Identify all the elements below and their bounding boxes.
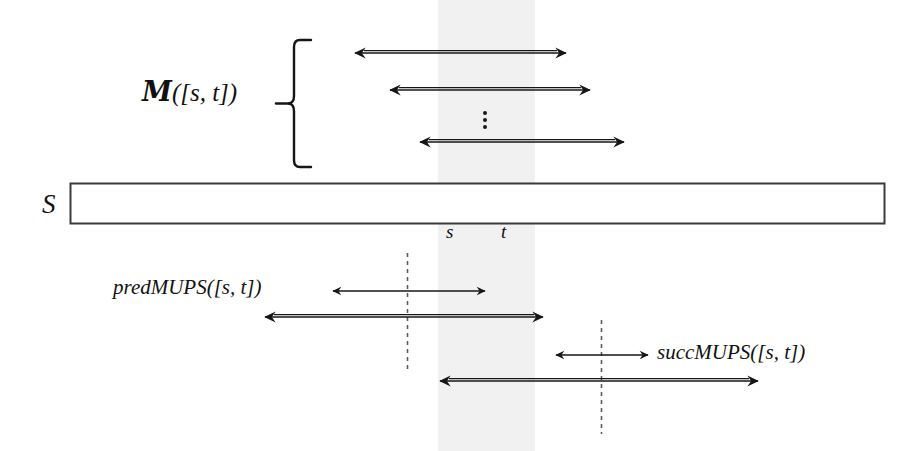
- interval-end-label: t: [501, 222, 506, 241]
- string-label: S: [42, 191, 56, 218]
- mups-interval-diagram: M([s, t]) S s t predMUPS([s, t]) succMUP…: [0, 0, 922, 451]
- mups-set-symbol: M: [142, 76, 172, 107]
- pred-mups-label: predMUPS([s, t]): [113, 277, 262, 298]
- brace-mups: [276, 40, 311, 167]
- diagram-canvas: [0, 0, 922, 451]
- mups-set-arguments: ([s, t]): [172, 79, 237, 106]
- interval-start-label: s: [446, 222, 453, 241]
- mups-set-label: M([s, t]): [142, 78, 237, 105]
- succ-mups-label: succMUPS([s, t]): [657, 342, 805, 363]
- string-bar: [71, 184, 885, 224]
- vertical-ellipsis-icon: [483, 111, 487, 129]
